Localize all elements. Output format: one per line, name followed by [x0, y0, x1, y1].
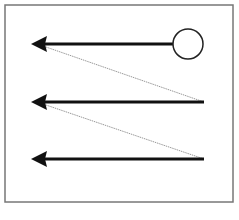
zigzag-diagram: [0, 0, 239, 220]
diagonal-connector-line: [46, 105, 204, 159]
arrow-head-icon: [31, 151, 47, 167]
arrow-head-icon: [31, 36, 47, 52]
arrow-head-icon: [31, 94, 47, 110]
start-circle: [173, 29, 203, 59]
